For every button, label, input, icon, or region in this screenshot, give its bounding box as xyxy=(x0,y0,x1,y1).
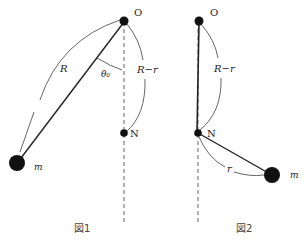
caption-figure-2: 図2 xyxy=(236,223,252,234)
length-arc-small-r-right xyxy=(234,172,264,176)
pivot-point-o xyxy=(120,17,129,26)
mass-bob xyxy=(264,167,280,183)
length-arc-rr-lower xyxy=(126,79,145,132)
length-arc-rr-lower xyxy=(200,78,221,130)
label-r-minus-r: R−r xyxy=(136,64,159,75)
nail-point-n xyxy=(194,129,202,137)
length-arc-r-lower xyxy=(20,112,34,152)
pendulum-diagram: O N m R R−r θ₀ 図1 O N m R−r r 図2 xyxy=(0,0,307,245)
length-arc-rr-upper xyxy=(127,24,143,60)
length-arc-rr-upper xyxy=(201,24,218,58)
label-small-r: r xyxy=(227,163,233,174)
pivot-point-o xyxy=(195,17,204,26)
caption-figure-1: 図1 xyxy=(74,223,90,234)
figure-1: O N m R R−r θ₀ 図1 xyxy=(9,7,159,234)
figure-2: O N m R−r r 図2 xyxy=(194,7,298,234)
label-m: m xyxy=(290,170,299,180)
upper-string xyxy=(197,22,199,133)
label-o: O xyxy=(134,7,142,18)
label-m: m xyxy=(34,162,43,172)
label-o: O xyxy=(210,7,218,18)
label-theta0: θ₀ xyxy=(101,69,110,79)
pendulum-string xyxy=(18,22,124,162)
label-n: N xyxy=(207,128,216,139)
label-r: R xyxy=(59,63,68,74)
label-n: N xyxy=(130,128,139,139)
mass-bob xyxy=(9,155,25,171)
label-r-minus-r: R−r xyxy=(213,63,236,74)
nail-point-n xyxy=(120,129,128,137)
length-arc-r-upper xyxy=(40,20,120,100)
